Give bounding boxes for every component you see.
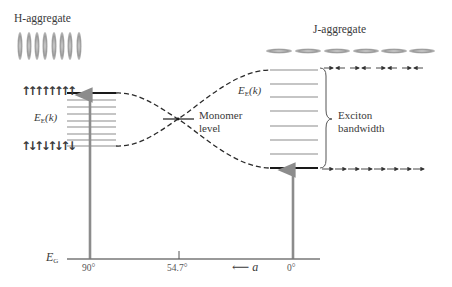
left-arrow-icon: ⟵	[232, 260, 249, 274]
h-top-dipole-arrows: ↑↑↑↑↑↑↑↑	[21, 84, 73, 98]
j-aggregate-band	[270, 70, 318, 168]
h-band-label: EE(k)	[34, 111, 57, 125]
h-aggregate-molecules	[17, 32, 81, 60]
j-aggregate-label: J-aggregate	[313, 23, 366, 35]
exciton-bandwidth-label: Excitonbandwidth	[338, 109, 384, 135]
ground-state-label: EG	[46, 250, 58, 265]
monomer-level	[163, 118, 194, 121]
angle-54-7-label: 54.7°	[167, 263, 187, 273]
h-aggregate-band	[67, 93, 116, 146]
monomer-level-label: Monomerlevel	[199, 109, 242, 135]
angle-axis-indicator: ⟵ a	[232, 260, 258, 275]
bandwidth-brace	[320, 68, 332, 168]
h-bottom-dipole-arrows: ↑↓↑↓↑↓↑↓	[21, 139, 73, 153]
j-band-label: EE(k)	[238, 84, 261, 98]
angle-90-label: 90°	[82, 263, 95, 273]
h-aggregate-label: H-aggregate	[14, 12, 71, 24]
j-aggregate-molecules	[266, 49, 435, 54]
angle-0-label: 0°	[287, 263, 296, 273]
